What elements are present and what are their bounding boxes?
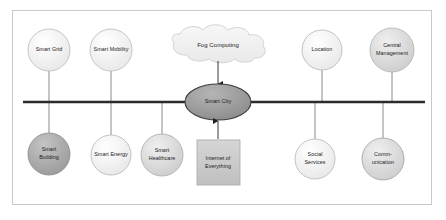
node-label-social-services-line1: Social bbox=[308, 151, 323, 157]
node-smart-grid[interactable]: Smart Grid bbox=[28, 29, 70, 71]
node-label-smart-mobility: Smart Mobility bbox=[94, 46, 129, 52]
smart-city-fishbone-diagram: Fog Computing Smart City Internet of Eve… bbox=[0, 0, 446, 220]
node-label-smart-building-line1: Smart bbox=[42, 146, 57, 152]
node-fog-computing[interactable]: Fog Computing bbox=[172, 25, 265, 63]
node-label-ioe-line1: Internet of bbox=[206, 155, 231, 161]
node-label-smart-healthcare-line1: Smart bbox=[155, 147, 170, 153]
node-central-management[interactable]: Central Management bbox=[370, 28, 414, 72]
node-label-central-management-line1: Central bbox=[383, 42, 401, 48]
node-location[interactable]: Location bbox=[302, 30, 342, 70]
node-smart-healthcare[interactable]: Smart Healthcare bbox=[141, 134, 183, 176]
node-label-smart-healthcare-line2: Healthcare bbox=[149, 155, 176, 161]
node-smart-energy[interactable]: Smart Energy bbox=[91, 135, 131, 175]
node-smart-city[interactable]: Smart City bbox=[185, 84, 251, 120]
node-label-communication-line2: unication bbox=[372, 159, 394, 165]
node-social-services[interactable]: Social Services bbox=[295, 139, 335, 179]
node-label-location: Location bbox=[312, 46, 333, 52]
diagram-canvas: Fog Computing Smart City Internet of Eve… bbox=[0, 0, 446, 220]
node-communication[interactable]: Comm- unication bbox=[362, 138, 404, 180]
node-label-smart-city: Smart City bbox=[205, 98, 232, 104]
node-smart-mobility[interactable]: Smart Mobility bbox=[90, 29, 132, 71]
node-label-ioe-line2: Everything bbox=[205, 163, 231, 169]
node-label-smart-grid: Smart Grid bbox=[36, 46, 63, 52]
node-label-fog-computing: Fog Computing bbox=[197, 42, 239, 48]
node-smart-building[interactable]: Smart Building bbox=[28, 133, 70, 175]
node-label-central-management-line2: Management bbox=[376, 50, 408, 56]
node-label-communication-line1: Comm- bbox=[374, 151, 392, 157]
node-label-smart-energy: Smart Energy bbox=[94, 151, 128, 157]
node-label-smart-building-line2: Building bbox=[39, 154, 59, 160]
node-internet-of-everything[interactable]: Internet of Everything bbox=[197, 140, 240, 185]
node-label-social-services-line2: Services bbox=[304, 159, 325, 165]
